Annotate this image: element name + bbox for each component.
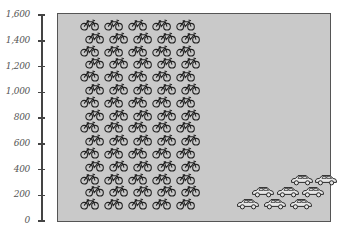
- bicycle-icon: [176, 96, 196, 108]
- bicycle-icon: [152, 198, 172, 210]
- bicycle-icon: [128, 198, 148, 210]
- bicycle-icon: [85, 57, 105, 69]
- bicycle-icon: [181, 57, 201, 69]
- bicycle-icon: [176, 147, 196, 159]
- bicycle-icon: [176, 19, 196, 31]
- bicycle-icon: [152, 96, 172, 108]
- bicycle-icon: [85, 160, 105, 172]
- bicycle-icon: [80, 70, 100, 82]
- bicycle-icon: [133, 83, 153, 95]
- bicycle-icon: [80, 147, 100, 159]
- bicycle-icon: [109, 185, 129, 197]
- bicycle-icon: [181, 32, 201, 44]
- bicycle-icon: [152, 19, 172, 31]
- car-icon: [301, 186, 325, 198]
- y-tick: [38, 220, 45, 222]
- bicycle-icon: [104, 19, 124, 31]
- bicycle-icon: [157, 160, 177, 172]
- bicycle-icon: [80, 121, 100, 133]
- y-tick: [38, 66, 45, 68]
- y-tick-label: 800: [0, 112, 30, 122]
- bicycle-icon: [133, 134, 153, 146]
- bicycle-icon: [104, 70, 124, 82]
- car-icon: [251, 186, 275, 198]
- bicycle-icon: [133, 109, 153, 121]
- plot-area: [57, 13, 331, 222]
- car-icon: [263, 198, 287, 210]
- y-tick: [38, 143, 45, 145]
- bicycle-icon: [104, 121, 124, 133]
- bicycle-icon: [80, 173, 100, 185]
- y-tick: [38, 40, 45, 42]
- bicycle-icon: [133, 185, 153, 197]
- bicycle-icon: [181, 160, 201, 172]
- y-tick-label: 1,600: [0, 9, 30, 19]
- y-tick: [38, 195, 45, 197]
- bicycle-icon: [176, 198, 196, 210]
- y-tick-label: 0: [0, 215, 30, 225]
- bicycle-icon: [128, 96, 148, 108]
- y-tick-label: 1,200: [0, 61, 30, 71]
- bicycle-icon: [133, 57, 153, 69]
- bicycle-icon: [109, 160, 129, 172]
- bicycle-icon: [128, 70, 148, 82]
- bicycle-icon: [133, 32, 153, 44]
- y-tick: [38, 169, 45, 171]
- y-tick: [38, 14, 45, 16]
- bicycle-icon: [181, 83, 201, 95]
- bicycle-icon: [152, 121, 172, 133]
- bicycle-icon: [109, 83, 129, 95]
- car-icon: [289, 198, 313, 210]
- y-tick-label: 200: [0, 189, 30, 199]
- bicycle-icon: [181, 109, 201, 121]
- y-tick-label: 400: [0, 164, 30, 174]
- pictograph-chart: 02004006008001,0001,2001,4001,600: [0, 0, 338, 238]
- bicycle-icon: [128, 45, 148, 57]
- bicycle-icon: [157, 109, 177, 121]
- bicycle-icon: [128, 147, 148, 159]
- car-icon: [314, 174, 338, 186]
- bicycle-icon: [176, 70, 196, 82]
- bicycle-icon: [109, 109, 129, 121]
- bicycle-icon: [152, 70, 172, 82]
- bicycle-icon: [157, 185, 177, 197]
- bicycle-icon: [85, 32, 105, 44]
- bicycle-icon: [104, 198, 124, 210]
- bicycle-icon: [104, 45, 124, 57]
- y-tick-label: 1,000: [0, 86, 30, 96]
- bicycle-icon: [104, 173, 124, 185]
- bicycle-icon: [157, 83, 177, 95]
- bicycle-icon: [85, 134, 105, 146]
- bicycle-icon: [152, 45, 172, 57]
- bicycle-icon: [128, 173, 148, 185]
- bicycle-icon: [85, 185, 105, 197]
- y-tick-label: 600: [0, 138, 30, 148]
- y-tick: [38, 117, 45, 119]
- y-tick-label: 1,400: [0, 35, 30, 45]
- bicycle-icon: [181, 134, 201, 146]
- bicycle-icon: [181, 185, 201, 197]
- bicycle-icon: [176, 121, 196, 133]
- bicycle-icon: [109, 32, 129, 44]
- bicycle-icon: [176, 45, 196, 57]
- bicycle-icon: [80, 45, 100, 57]
- bicycle-icon: [133, 160, 153, 172]
- bicycle-icon: [152, 173, 172, 185]
- bicycle-icon: [152, 147, 172, 159]
- bicycle-icon: [85, 83, 105, 95]
- bicycle-icon: [85, 109, 105, 121]
- bicycle-icon: [157, 134, 177, 146]
- bicycle-icon: [80, 198, 100, 210]
- bicycle-icon: [109, 134, 129, 146]
- car-icon: [276, 186, 300, 198]
- bicycle-icon: [176, 173, 196, 185]
- car-icon: [290, 174, 314, 186]
- bicycle-icon: [80, 96, 100, 108]
- car-icon: [236, 198, 260, 210]
- bicycle-icon: [128, 19, 148, 31]
- bicycle-icon: [157, 32, 177, 44]
- bicycle-icon: [128, 121, 148, 133]
- y-tick: [38, 92, 45, 94]
- bicycle-icon: [104, 96, 124, 108]
- bicycle-icon: [109, 57, 129, 69]
